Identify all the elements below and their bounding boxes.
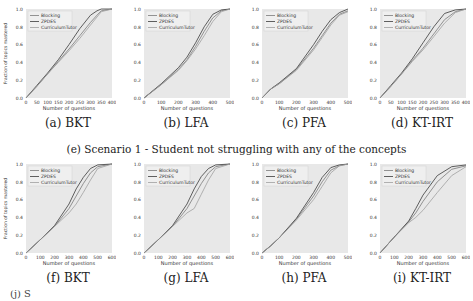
legend-label: Blocking [395, 168, 414, 173]
y-tick-label: 0.8 [16, 180, 23, 185]
y-tick-label: 0.2 [16, 78, 23, 83]
x-tick-label: 0 [143, 255, 146, 260]
subfigure-caption: (f) BKT [10, 271, 126, 285]
legend: BlockingZPDESCurriculumTutor [382, 166, 431, 186]
y-tick-label: 0.6 [16, 197, 23, 202]
legend-label: ZPDES [159, 174, 174, 179]
chart-panel-6: 0.00.20.40.60.81.00100200300400500600Num… [118, 158, 234, 276]
y-tick-label: 0.4 [252, 60, 259, 65]
legend-label: Blocking [41, 13, 60, 18]
legend: BlockingZPDESCurriculumTutor [382, 11, 431, 31]
y-tick-label: 1.0 [134, 7, 141, 12]
x-tick-label: 0 [261, 100, 264, 105]
y-tick-label: 0.0 [252, 96, 259, 101]
x-tick-label: 0 [143, 100, 146, 105]
subfigure-caption: (b) LFA [128, 116, 244, 130]
legend: BlockingZPDESCurriculumTutor [146, 11, 195, 31]
x-tick-label: 0 [379, 255, 382, 260]
legend: BlockingZPDESCurriculumTutor [28, 11, 77, 31]
subfigure-caption: (c) PFA [246, 116, 362, 130]
chart-panel-5: 0.00.20.40.60.81.00100200300400500600Num… [0, 158, 116, 276]
legend-label: CurriculumTutor [159, 25, 195, 30]
x-tick-label: 350 [97, 100, 106, 105]
legend-label: Blocking [277, 13, 296, 18]
x-tick-label: 0 [25, 100, 28, 105]
line-chart: 0.00.20.40.60.81.00501001502002503003504… [354, 3, 470, 121]
y-tick-label: 1.0 [370, 7, 377, 12]
x-axis-label: Number of questions [161, 260, 214, 267]
legend-label: ZPDES [277, 19, 292, 24]
line-chart: 0.00.20.40.60.81.00100200300400500600Num… [118, 158, 234, 276]
x-tick-label: 500 [226, 100, 234, 105]
legend-label: Blocking [277, 168, 296, 173]
legend-label: ZPDES [277, 174, 292, 179]
y-tick-label: 0.0 [370, 96, 377, 101]
y-tick-label: 0.2 [252, 78, 259, 83]
y-tick-label: 0.6 [252, 42, 259, 47]
line-chart: 0.00.20.40.60.81.00100200300400500600Num… [0, 158, 116, 276]
chart-panel-1: 0.00.20.40.60.81.00501001502002503003504… [0, 3, 116, 121]
y-tick-label: 0.4 [16, 60, 23, 65]
line-chart: 0.00.20.40.60.81.00100200300400500Number… [236, 158, 352, 276]
y-tick-label: 0.0 [134, 251, 141, 256]
legend-label: CurriculumTutor [41, 180, 77, 185]
scenario-2-caption-fragment: (j) S [10, 288, 31, 299]
chart-panel-2: 0.00.20.40.60.81.00100200300400500Number… [118, 3, 234, 121]
line-chart: 0.00.20.40.60.81.00100200300400500Number… [236, 3, 352, 121]
y-tick-label: 0.4 [370, 60, 377, 65]
legend: BlockingZPDESCurriculumTutor [264, 166, 313, 186]
x-tick-label: 0 [379, 100, 382, 105]
y-tick-label: 1.0 [252, 7, 259, 12]
x-tick-label: 600 [462, 255, 470, 260]
legend-label: CurriculumTutor [395, 25, 431, 30]
y-tick-label: 0.4 [370, 215, 377, 220]
subfigure-caption: (h) PFA [246, 271, 362, 285]
y-tick-label: 0.6 [134, 197, 141, 202]
x-tick-label: 400 [108, 100, 116, 105]
y-tick-label: 0.6 [370, 42, 377, 47]
y-tick-label: 0.2 [134, 78, 141, 83]
y-tick-label: 1.0 [252, 162, 259, 167]
y-tick-label: 1.0 [134, 162, 141, 167]
y-tick-label: 0.0 [16, 251, 23, 256]
legend-label: ZPDES [41, 174, 56, 179]
legend-label: CurriculumTutor [277, 180, 313, 185]
y-tick-label: 0.8 [134, 25, 141, 30]
y-tick-label: 0.6 [16, 42, 23, 47]
y-tick-label: 0.4 [16, 215, 23, 220]
x-tick-label: 500 [344, 100, 352, 105]
y-tick-label: 0.2 [370, 78, 377, 83]
chart-panel-4: 0.00.20.40.60.81.00501001502002503003504… [354, 3, 470, 121]
line-chart: 0.00.20.40.60.81.00100200300400500600Num… [354, 158, 470, 276]
y-tick-label: 0.6 [252, 197, 259, 202]
x-tick-label: 0 [261, 255, 264, 260]
y-axis-label: Fraction of topics mastered [3, 23, 8, 85]
scenario-1-caption: (e) Scenario 1 - Student not struggling … [0, 143, 473, 155]
legend-label: ZPDES [395, 174, 410, 179]
y-tick-label: 1.0 [16, 162, 23, 167]
x-tick-label: 600 [226, 255, 234, 260]
subfigure-caption: (a) BKT [10, 116, 126, 130]
x-tick-label: 600 [108, 255, 116, 260]
x-axis-label: Number of questions [397, 105, 450, 112]
subfigure-caption: (g) LFA [128, 271, 244, 285]
y-tick-label: 0.0 [134, 96, 141, 101]
x-tick-label: 400 [462, 100, 470, 105]
y-tick-label: 0.8 [252, 180, 259, 185]
x-axis-label: Number of questions [279, 260, 332, 267]
x-tick-label: 350 [451, 100, 460, 105]
chart-panel-8: 0.00.20.40.60.81.00100200300400500600Num… [354, 158, 470, 276]
chart-panel-7: 0.00.20.40.60.81.00100200300400500Number… [236, 158, 352, 276]
x-axis-label: Number of questions [161, 105, 214, 112]
legend-label: Blocking [41, 168, 60, 173]
y-tick-label: 0.2 [16, 233, 23, 238]
y-tick-label: 0.8 [16, 25, 23, 30]
legend-label: ZPDES [41, 19, 56, 24]
y-tick-label: 1.0 [16, 7, 23, 12]
y-tick-label: 0.4 [134, 60, 141, 65]
x-tick-label: 50 [388, 100, 394, 105]
subfigure-caption: (i) KT-IRT [364, 271, 473, 285]
y-tick-label: 0.2 [370, 233, 377, 238]
x-axis-label: Number of questions [43, 260, 96, 267]
subfigure-caption: (d) KT-IRT [364, 116, 473, 130]
